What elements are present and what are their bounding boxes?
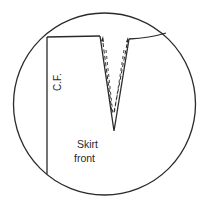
piece-label-line2: front <box>74 152 95 164</box>
center-front-label: C.F. <box>52 73 63 91</box>
diagram-canvas: C.F. Skirt front <box>0 0 209 208</box>
piece-label-line1: Skirt <box>77 138 98 150</box>
dart-dashed-line-left <box>103 43 112 112</box>
skirt-front-dart-diagram: C.F. Skirt front <box>0 0 209 208</box>
detail-circle <box>14 13 196 195</box>
dart-dashed-line-right <box>114 44 127 112</box>
waistline-left <box>47 36 100 37</box>
arrowhead-left-icon <box>101 36 104 42</box>
waistline-right <box>129 33 166 39</box>
